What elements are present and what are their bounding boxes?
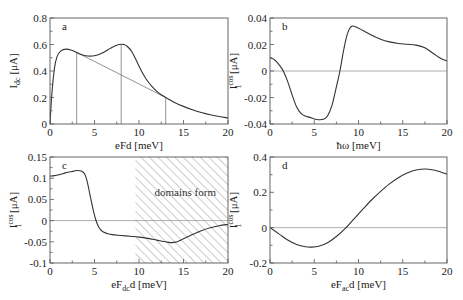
y-tick-label: 0 <box>262 65 268 77</box>
panel-a: 05101520 00.20.40.60.8 a eFd [meV] Idc [… <box>7 12 234 151</box>
x-ticks: 05101520 <box>267 120 453 138</box>
panel-letter: d <box>282 159 288 171</box>
x-tick-label: 0 <box>47 126 53 138</box>
x-ticks: 05101520 <box>267 259 453 277</box>
y-tick-label: 0.02 <box>248 39 267 51</box>
y-ticks: -0.04-0.0200.020.04 <box>244 12 274 130</box>
x-tick-label: 20 <box>223 265 235 277</box>
panel-c: domains form 05101520 -0.1-0.0500.050.10… <box>6 151 234 293</box>
x-tick-label: 10 <box>353 126 365 138</box>
x-tick-label: 15 <box>397 126 409 138</box>
y-tick-label: -0.04 <box>244 118 267 130</box>
y-tick-label: 0.1 <box>33 172 47 184</box>
x-tick-label: 15 <box>397 265 409 277</box>
panel-d: 05101520 -0.200.20.4 d eFacd [meV] Icos1… <box>226 151 453 293</box>
y-axis-label: Idc [μA] <box>7 53 22 88</box>
annotation-domains-form: domains form <box>155 186 217 198</box>
axis-frame <box>270 157 447 263</box>
figure: 05101520 00.20.40.60.8 a eFd [meV] Idc [… <box>0 0 463 300</box>
y-tick-label: 0.2 <box>33 92 47 104</box>
x-axis-label: eFd [meV] <box>115 139 163 151</box>
x-tick-label: 15 <box>178 126 190 138</box>
x-axis-label: eFacd [meV] <box>331 278 386 293</box>
hatched-region: domains form <box>135 157 228 263</box>
x-tick-label: 0 <box>267 265 273 277</box>
y-tick-label: -0.2 <box>250 257 267 269</box>
x-axis-label: eFdcd [meV] <box>111 278 167 293</box>
x-tick-label: 5 <box>92 126 98 138</box>
y-axis-label: Icos1 [μA] <box>6 192 23 228</box>
y-tick-label: 0.04 <box>248 12 268 24</box>
x-tick-label: 10 <box>353 265 365 277</box>
x-tick-label: 0 <box>47 265 53 277</box>
x-tick-label: 20 <box>223 126 235 138</box>
panel-letter: b <box>282 20 288 32</box>
y-tick-label: 0.4 <box>33 65 47 77</box>
data-curve <box>270 169 447 247</box>
x-axis-label: ħω [meV] <box>336 139 380 151</box>
y-tick-label: -0.1 <box>30 257 47 269</box>
y-tick-label: 0.2 <box>253 186 267 198</box>
x-tick-label: 20 <box>442 126 454 138</box>
y-axis-label: Icos1 [μA] <box>226 53 243 89</box>
y-tick-label: 0 <box>42 215 48 227</box>
panel-letter: c <box>62 159 67 171</box>
x-tick-label: 20 <box>442 265 454 277</box>
y-ticks: -0.1-0.0500.050.10.15 <box>24 151 54 269</box>
y-tick-label: -0.02 <box>244 92 267 104</box>
x-ticks: 05101520 <box>47 120 234 138</box>
x-tick-label: 5 <box>312 265 318 277</box>
x-tick-label: 10 <box>134 126 146 138</box>
y-tick-label: -0.05 <box>24 236 47 248</box>
y-axis-label: Icos1 [μA] <box>226 192 243 228</box>
y-tick-label: 0 <box>42 118 48 130</box>
x-tick-label: 15 <box>178 265 190 277</box>
y-tick-label: 0.6 <box>33 39 47 51</box>
panel-letter: a <box>62 20 67 32</box>
x-tick-label: 5 <box>92 265 98 277</box>
x-tick-label: 5 <box>312 126 318 138</box>
y-tick-label: 0.8 <box>33 12 47 24</box>
x-tick-label: 0 <box>267 126 273 138</box>
panel-b: 05101520 -0.04-0.0200.020.04 b ħω [meV] … <box>226 12 453 151</box>
y-tick-label: 0.4 <box>253 151 267 163</box>
y-tick-label: 0 <box>262 222 268 234</box>
x-tick-label: 10 <box>134 265 146 277</box>
y-tick-label: 0.05 <box>28 193 48 205</box>
y-tick-label: 0.15 <box>28 151 48 163</box>
data-curve <box>270 26 447 120</box>
